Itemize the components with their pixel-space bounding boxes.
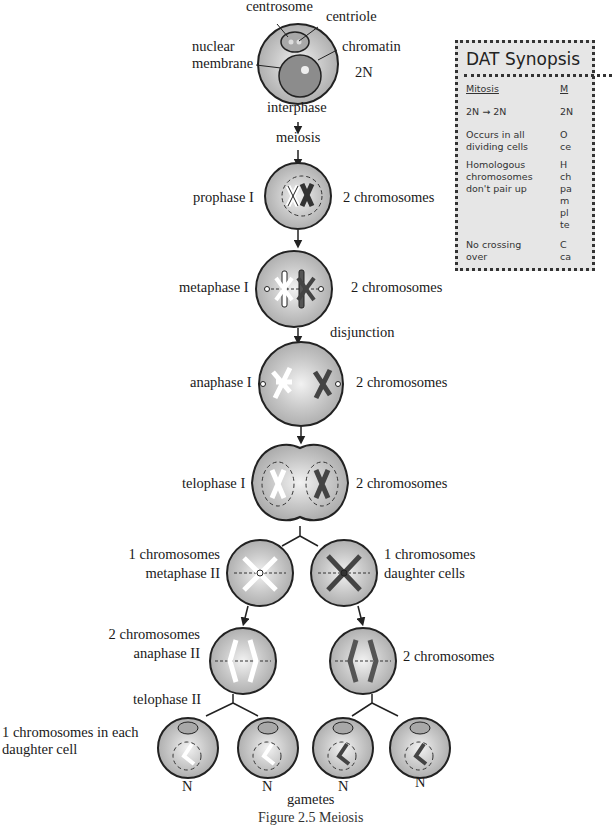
synopsis-col-1-row-3: Homologous chromosomes don't pair up bbox=[466, 159, 533, 195]
label-daughter-cells-count: 1 chromosomes bbox=[384, 546, 475, 563]
label-metaphase-2-count: 1 chromosomes bbox=[100, 546, 220, 563]
gamete-cells bbox=[158, 718, 450, 778]
synopsis-title: DAT Synopsis bbox=[466, 49, 580, 69]
gamete-cell-4 bbox=[390, 718, 450, 778]
metaphase-2-cell bbox=[227, 540, 293, 606]
label-gametes: gametes bbox=[287, 791, 335, 808]
synopsis-col-2-row-3: H ch pa m pl te bbox=[560, 159, 572, 231]
label-disjunction: disjunction bbox=[330, 324, 394, 341]
label-anaphase-2-count: 2 chromosomes bbox=[80, 626, 200, 643]
synopsis-col-1-row-2: Occurs in all dividing cells bbox=[466, 129, 528, 153]
synopsis-col-2-row-2: O ce bbox=[560, 129, 571, 153]
gamete-cell-3 bbox=[313, 718, 373, 778]
label-daughter-cells: daughter cells bbox=[384, 565, 465, 582]
synopsis-col-1-row-1: 2N → 2N bbox=[466, 106, 506, 118]
gamete-cell-2 bbox=[238, 718, 298, 778]
anaphase-2-cell-left bbox=[210, 628, 276, 694]
nucleus-icon bbox=[279, 55, 321, 97]
label-ploidy-2n: 2N bbox=[355, 64, 373, 81]
label-telophase-2: telophase II bbox=[133, 691, 201, 708]
label-chromatin: chromatin bbox=[342, 38, 401, 55]
synopsis-col-2-row-1: 2N bbox=[560, 106, 573, 118]
label-anaphase-1-count: 2 chromosomes bbox=[356, 374, 447, 391]
label-prophase-1: prophase I bbox=[193, 189, 254, 206]
centrosome-icon bbox=[281, 32, 309, 52]
anaphase-2-cell-right bbox=[330, 628, 396, 694]
synopsis-col-1-row-4: No crossing over bbox=[466, 239, 521, 263]
interphase-cell bbox=[256, 24, 338, 104]
gamete-cell-1 bbox=[158, 718, 218, 778]
label-telophase-2-note: 1 chromosomes in each daughter cell bbox=[2, 724, 139, 758]
metaphase-1-cell bbox=[256, 251, 332, 327]
label-interphase: interphase bbox=[267, 99, 327, 116]
label-telophase-1-count: 2 chromosomes bbox=[356, 475, 447, 492]
label-prophase-1-count: 2 chromosomes bbox=[343, 189, 434, 206]
label-nuclear-membrane: nuclear membrane bbox=[192, 38, 254, 72]
label-centriole: centriole bbox=[326, 8, 377, 25]
dat-synopsis-box: DAT Synopsis Mitosis 2N → 2N Occurs in a… bbox=[455, 40, 595, 271]
synopsis-divider bbox=[464, 74, 612, 77]
label-gamete-ploidy-3: N bbox=[338, 778, 348, 795]
synopsis-col-2-header: M bbox=[560, 83, 568, 95]
label-metaphase-1: metaphase I bbox=[179, 279, 249, 296]
synopsis-col-1-header: Mitosis bbox=[466, 83, 499, 95]
label-anaphase-2-right-count: 2 chromosomes bbox=[403, 648, 494, 665]
daughter-cell-right bbox=[311, 540, 377, 606]
label-centrosome: centrosome bbox=[246, 0, 313, 15]
anaphase-1-cell bbox=[259, 342, 343, 426]
label-metaphase-1-count: 2 chromosomes bbox=[351, 279, 442, 296]
label-anaphase-1: anaphase I bbox=[190, 374, 252, 391]
prophase-1-cell bbox=[265, 163, 331, 229]
telophase-1-cell bbox=[252, 445, 348, 521]
figure-caption: Figure 2.5 Meiosis bbox=[258, 810, 363, 826]
label-gamete-ploidy-1: N bbox=[182, 778, 192, 795]
label-meiosis: meiosis bbox=[276, 129, 320, 146]
synopsis-col-2-row-4: C ca bbox=[560, 239, 571, 263]
label-anaphase-2: anaphase II bbox=[80, 645, 200, 662]
label-metaphase-2: metaphase II bbox=[100, 565, 220, 582]
label-gamete-ploidy-2: N bbox=[262, 778, 272, 795]
label-gamete-ploidy-4: N bbox=[415, 774, 425, 791]
label-telophase-1: telophase I bbox=[182, 475, 245, 492]
